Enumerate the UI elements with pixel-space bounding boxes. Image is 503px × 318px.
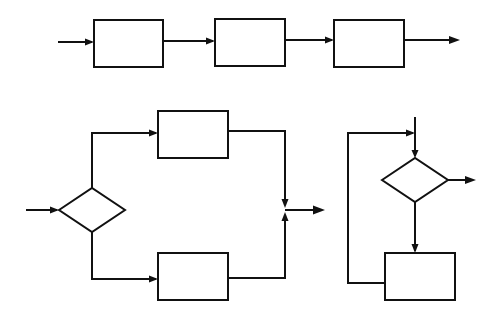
serial-block-1: [94, 20, 163, 67]
arrowhead-icon: [149, 276, 158, 283]
branch-decision: [59, 188, 125, 232]
arrowhead-icon: [206, 38, 215, 45]
arrowhead-icon: [412, 244, 419, 253]
branch-lower-block: [158, 253, 228, 300]
arrowhead-icon: [149, 130, 158, 137]
branch-lower-return-edge: [228, 216, 285, 278]
branch-upper-return-edge: [228, 131, 285, 204]
branch-upper-edge: [92, 133, 156, 188]
loop-block: [385, 253, 455, 300]
arrowhead-icon: [313, 206, 325, 215]
branch-group: [26, 111, 325, 300]
arrowhead-icon: [325, 37, 334, 44]
loop-decision: [382, 158, 448, 202]
branch-upper-block: [158, 111, 228, 158]
arrowhead-icon: [406, 130, 415, 137]
arrowhead-icon: [465, 176, 476, 184]
serial-block-3: [334, 20, 404, 67]
arrowhead-icon: [282, 212, 289, 221]
branch-lower-edge: [92, 232, 156, 279]
loop-group: [348, 117, 476, 300]
arrowhead-icon: [282, 199, 289, 208]
arrowhead-icon: [85, 39, 94, 46]
arrowhead-icon: [449, 36, 460, 44]
serial-chain: [58, 19, 460, 67]
flowchart-diagram: [0, 0, 503, 318]
serial-block-2: [215, 19, 285, 66]
